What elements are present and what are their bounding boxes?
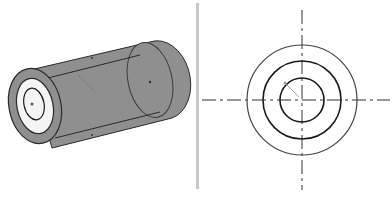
front-view [202, 10, 390, 190]
isometric-tube [2, 38, 191, 148]
diagram-canvas [0, 0, 392, 197]
view-divider [196, 3, 199, 189]
